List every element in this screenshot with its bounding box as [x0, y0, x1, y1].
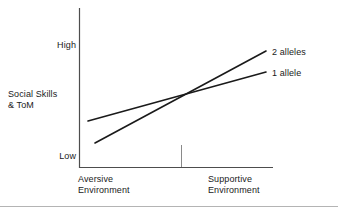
x-axis-label-aversive-line2: Environment — [78, 185, 162, 196]
series-label-1-allele: 1 allele — [272, 68, 301, 79]
x-axis-label-supportive-line2: Environment — [208, 185, 298, 196]
series-label-2-alleles: 2 alleles — [272, 47, 306, 58]
x-axis-label-aversive-line1: Aversive — [78, 174, 113, 184]
x-axis-label-supportive: Supportive Environment — [208, 174, 298, 196]
x-axis-label-supportive-line1: Supportive — [208, 174, 252, 184]
bottom-divider-rule — [0, 206, 338, 207]
series-line-2-alleles — [95, 51, 266, 143]
y-axis-low-label: Low — [28, 151, 76, 162]
y-axis-title-line2: & ToM — [8, 100, 76, 111]
y-axis-title: Social Skills & ToM — [8, 89, 76, 111]
series-line-1-allele — [88, 72, 266, 121]
y-axis-title-line1: Social Skills — [8, 89, 57, 99]
chart-figure: High Low Social Skills & ToM 2 alleles 1… — [0, 0, 338, 213]
y-axis-high-label: High — [28, 40, 76, 51]
x-axis-label-aversive: Aversive Environment — [78, 174, 162, 196]
